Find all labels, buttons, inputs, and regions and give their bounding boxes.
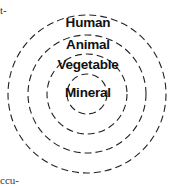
label-vegetable: Vegetable: [57, 57, 119, 72]
label-animal: Animal: [66, 37, 110, 52]
label-human: Human: [66, 15, 111, 30]
label-mineral: Mineral: [65, 85, 111, 100]
concentric-circles-diagram: Human Animal Vegetable Mineral: [0, 0, 174, 186]
